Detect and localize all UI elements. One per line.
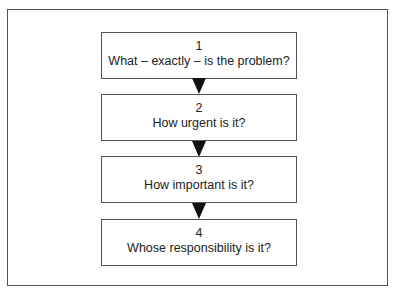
- step-question: Whose responsibility is it?: [102, 241, 296, 256]
- step-number: 2: [102, 101, 296, 116]
- step-1-box: 1 What – exactly – is the problem?: [101, 32, 297, 79]
- step-question: How urgent is it?: [102, 116, 296, 131]
- arrow-down-icon: [192, 203, 206, 219]
- step-number: 3: [102, 163, 296, 178]
- step-3-box: 3 How important is it?: [101, 156, 297, 203]
- arrow-down-icon: [192, 141, 206, 157]
- step-2-box: 2 How urgent is it?: [101, 94, 297, 141]
- step-question: How important is it?: [102, 178, 296, 193]
- step-number: 4: [102, 226, 296, 241]
- step-question: What – exactly – is the problem?: [102, 54, 296, 69]
- step-4-box: 4 Whose responsibility is it?: [101, 219, 297, 266]
- step-number: 1: [102, 39, 296, 54]
- arrow-down-icon: [192, 78, 206, 94]
